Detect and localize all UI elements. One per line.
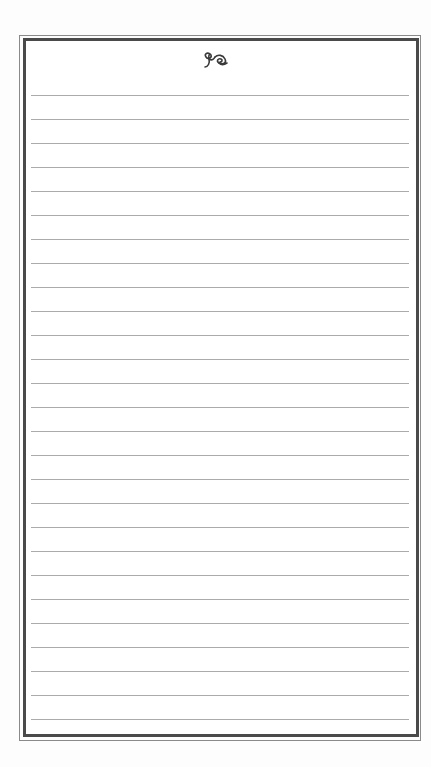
ruled-line — [31, 95, 409, 96]
ruled-line — [31, 191, 409, 192]
ruled-line — [31, 119, 409, 120]
ruled-line — [31, 431, 409, 432]
ruled-line — [31, 239, 409, 240]
ruled-line — [31, 671, 409, 672]
ruled-line — [31, 527, 409, 528]
ruled-line — [31, 551, 409, 552]
ruled-line — [31, 263, 409, 264]
ruled-line — [31, 455, 409, 456]
ruled-line — [31, 167, 409, 168]
ruled-line — [31, 623, 409, 624]
ruled-line — [31, 383, 409, 384]
ruled-line — [31, 311, 409, 312]
flourish-ornament-icon — [201, 50, 229, 70]
ruled-line — [31, 359, 409, 360]
ruled-line — [31, 479, 409, 480]
ruled-line — [31, 599, 409, 600]
ruled-line — [31, 575, 409, 576]
ruled-line — [31, 143, 409, 144]
ruled-line — [31, 335, 409, 336]
ruled-line — [31, 695, 409, 696]
ruled-line — [31, 719, 409, 720]
ruled-line — [31, 647, 409, 648]
ruled-line — [31, 407, 409, 408]
ruled-line — [31, 215, 409, 216]
ruled-line — [31, 287, 409, 288]
ruled-line — [31, 503, 409, 504]
